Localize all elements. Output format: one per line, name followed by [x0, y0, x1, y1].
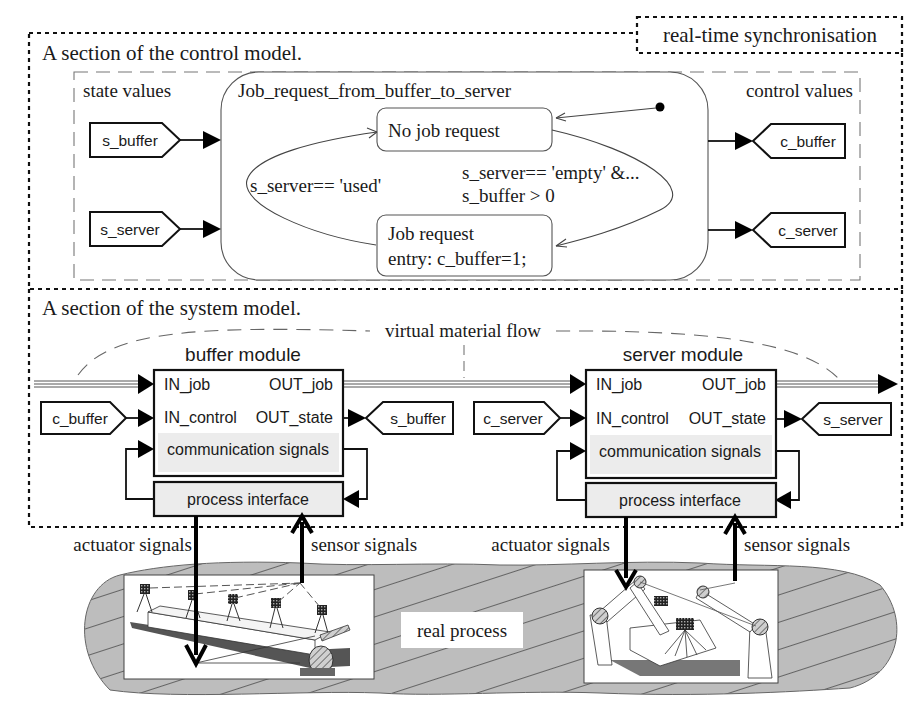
svg-text:process interface: process interface: [619, 492, 741, 509]
entry-action: entry: c_buffer=1;: [388, 248, 527, 269]
svg-text:c_server: c_server: [483, 410, 542, 427]
input-s-server[interactable]: s_server: [90, 212, 221, 246]
port-out-job: OUT_job: [702, 376, 766, 394]
svg-text:c_server: c_server: [778, 222, 837, 239]
state-job-request[interactable]: Job request entry: c_buffer=1;: [377, 215, 552, 276]
arrow-icon: [138, 440, 154, 458]
actuator-signals-label: actuator signals: [73, 534, 192, 555]
arrow-icon: [784, 410, 802, 428]
port-out-state: OUT_state: [256, 409, 333, 427]
real-process-section: real process: [73, 516, 897, 695]
control-input-c-server[interactable]: c_server: [474, 402, 586, 434]
system-model-title: A section of the system model.: [42, 296, 301, 320]
actuator-signals-label: actuator signals: [491, 534, 610, 555]
state-output-s-server[interactable]: s_server: [776, 403, 891, 435]
arrow-icon: [343, 490, 359, 508]
initial-state-dot: [656, 103, 665, 112]
state-no-job-request[interactable]: No job request: [377, 108, 552, 151]
robot-illustration: [584, 570, 778, 683]
svg-text:s_server: s_server: [100, 221, 159, 238]
camera-icon: [654, 596, 668, 606]
control-input-c-buffer[interactable]: c_buffer: [41, 402, 154, 434]
input-s-buffer[interactable]: s_buffer: [90, 123, 221, 157]
port-out-job: OUT_job: [269, 376, 333, 394]
output-c-server[interactable]: c_server: [708, 213, 845, 247]
arrow-icon: [348, 409, 366, 427]
svg-text:c_buffer: c_buffer: [52, 410, 108, 427]
state-output-s-buffer[interactable]: s_buffer: [343, 402, 453, 434]
svg-text:s_buffer: s_buffer: [390, 410, 446, 427]
svg-text:Job request: Job request: [388, 223, 475, 244]
arrow-icon: [570, 374, 586, 394]
arrow-icon: [570, 409, 586, 427]
buffer-module[interactable]: buffer module IN_job OUT_job IN_control …: [41, 344, 453, 516]
system-model-section: A section of the system model. virtual m…: [29, 289, 902, 527]
guard-empty: s_server== 'empty' &...: [462, 162, 640, 183]
process-interface-server[interactable]: process interface: [586, 483, 776, 517]
control-model-title: A section of the control model.: [42, 41, 302, 65]
communication-signals: communication signals: [599, 443, 761, 460]
real-time-sync-badge: real-time synchronisation: [637, 17, 902, 53]
module-title: buffer module: [185, 344, 301, 365]
guard-buffer: s_buffer > 0: [462, 185, 555, 206]
svg-text:c_buffer: c_buffer: [780, 133, 836, 150]
camera-icon: [676, 618, 694, 630]
arrow-icon: [735, 132, 753, 150]
guard-used: s_server== 'used': [250, 175, 381, 196]
arrow-icon: [203, 131, 221, 149]
sensor-signals-label: sensor signals: [744, 534, 850, 555]
state-values-label: state values: [83, 80, 171, 101]
sync-label: real-time synchronisation: [663, 23, 878, 47]
diagram-canvas: real-time synchronisation A section of t…: [0, 0, 923, 710]
svg-text:s_buffer: s_buffer: [102, 132, 158, 149]
port-in-job: IN_job: [164, 376, 210, 394]
port-out-state: OUT_state: [689, 410, 766, 428]
virtual-flow-label: virtual material flow: [385, 320, 541, 341]
output-c-buffer[interactable]: c_buffer: [708, 124, 845, 158]
svg-text:process interface: process interface: [187, 491, 309, 508]
sensor-signals-label: sensor signals: [311, 534, 417, 555]
port-in-control: IN_control: [164, 409, 237, 427]
real-process-label: real process: [417, 620, 507, 641]
joint-icon: [752, 619, 768, 635]
arrow-icon: [138, 374, 154, 394]
arrow-icon: [735, 221, 753, 239]
port-in-control: IN_control: [596, 410, 669, 428]
process-interface-buffer[interactable]: process interface: [154, 482, 343, 516]
conveyor-illustration: [124, 575, 374, 679]
joint-icon: [697, 586, 709, 598]
statechart-name: Job_request_from_buffer_to_server: [238, 80, 512, 101]
port-in-job: IN_job: [596, 376, 642, 394]
arrow-icon: [138, 409, 154, 427]
arrow-icon: [203, 220, 221, 238]
control-values-label: control values: [746, 80, 853, 101]
module-title: server module: [623, 344, 743, 365]
svg-text:s_server: s_server: [823, 411, 882, 428]
control-model-section: A section of the control model. state va…: [29, 33, 902, 289]
joint-icon: [592, 608, 608, 624]
arrow-icon: [775, 491, 791, 509]
svg-text:No job request: No job request: [388, 120, 501, 141]
flow-arrow-icon: [878, 374, 898, 394]
communication-signals: communication signals: [167, 441, 329, 458]
arrow-icon: [570, 442, 586, 460]
